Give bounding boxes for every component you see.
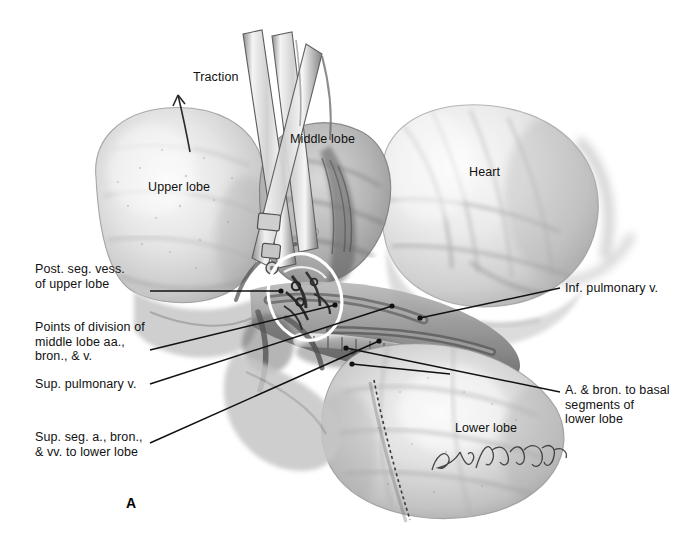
label-a-bron-basal-segments: A. & bron. to basal segments of lower lo… <box>565 383 670 427</box>
label-middle-lobe: Middle lobe <box>290 132 355 147</box>
label-inf-pulmonary-v: Inf. pulmonary v. <box>565 281 658 296</box>
label-sup-pulmonary-v: Sup. pulmonary v. <box>35 377 137 392</box>
panel-label-a: A <box>126 495 136 511</box>
lower-lobe-region <box>310 344 578 522</box>
illustration-canvas: Traction Upper lobe Middle lobe Heart Lo… <box>0 0 697 558</box>
label-post-seg-vess-upper-lobe: Post. seg. vess. of upper lobe <box>35 262 125 291</box>
label-heart: Heart <box>469 165 500 180</box>
label-sup-seg-lower-lobe: Sup. seg. a., bron., & vv. to lower lobe <box>35 430 143 459</box>
heart-region <box>380 105 632 307</box>
label-traction: Traction <box>193 70 239 85</box>
label-upper-lobe: Upper lobe <box>148 180 210 195</box>
label-points-of-division: Points of division of middle lobe aa., b… <box>35 320 145 364</box>
label-lower-lobe: Lower lobe <box>455 421 517 436</box>
